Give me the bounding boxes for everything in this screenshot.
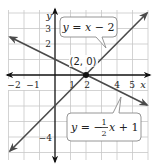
x-tick-label: 5	[129, 80, 135, 90]
y-tick-label: −4	[39, 133, 53, 143]
intersection-point	[83, 72, 89, 78]
x-axis-label: x	[140, 79, 146, 90]
callout-line1-text: y = x − 2	[62, 21, 115, 34]
callout-line2: y = − 1 2 x + 1	[67, 97, 141, 141]
x-tick-label: 2	[84, 80, 90, 90]
line-y-equals-neg-half-x-plus-1	[10, 37, 147, 105]
callout-line2-rhs: x + 1	[109, 121, 138, 134]
callout-line2-lhs: y = −	[70, 121, 103, 134]
x-tick-label: −2	[7, 80, 20, 90]
coordinate-plane: −2 −1 1 2 4 5 x y 3 2 −4 (2, 0) y = x − …	[0, 0, 157, 167]
y-tick-label: 2	[45, 39, 51, 49]
y-axis-label: y	[45, 10, 52, 21]
fraction-denominator: 2	[101, 129, 106, 138]
x-tick-label: −1	[26, 80, 39, 90]
y-tick-label: 3	[45, 24, 51, 34]
callout-line1: y = x − 2	[60, 17, 117, 48]
intersection-label: (2, 0)	[70, 56, 97, 67]
fraction-numerator: 1	[101, 118, 106, 127]
